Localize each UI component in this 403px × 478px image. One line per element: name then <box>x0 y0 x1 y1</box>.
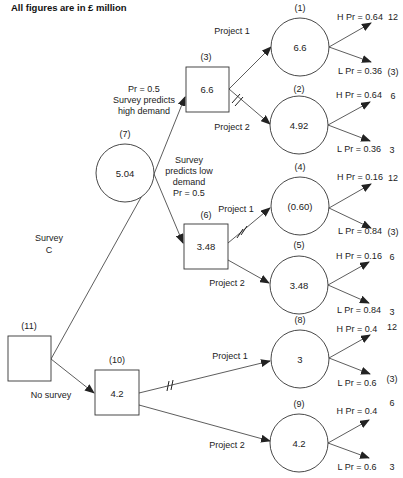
label-3-project2: Project 2 <box>214 122 250 132</box>
decision-node-6: (6) 3.48 <box>184 210 228 269</box>
edge-10-project2 <box>139 405 270 441</box>
svg-text:(3): (3) <box>388 67 399 77</box>
label-10-project1: Project 1 <box>212 351 248 361</box>
edge-no-survey <box>51 359 94 393</box>
svg-text:(3): (3) <box>201 52 212 62</box>
title: All figures are in £ million <box>11 2 127 13</box>
svg-text:12: 12 <box>388 173 398 183</box>
svg-text:Survey: Survey <box>35 233 64 243</box>
svg-text:demand: demand <box>173 177 206 187</box>
outcomes-node-8: H Pr = 0.4 12 L Pr = 0.6 (3) <box>337 322 398 388</box>
edge-10-project1 <box>139 361 270 393</box>
svg-text:3.48: 3.48 <box>197 241 216 252</box>
svg-text:L Pr = 0.36: L Pr = 0.36 <box>338 66 382 76</box>
svg-text:(7): (7) <box>120 129 131 139</box>
svg-text:L Pr = 0.6: L Pr = 0.6 <box>338 462 377 472</box>
svg-text:(3): (3) <box>387 374 398 384</box>
label-survey: Survey C <box>35 233 64 255</box>
outcomes-node-5: H Pr = 0.16 6 L Pr = 0.84 3 <box>336 251 394 317</box>
svg-text:H Pr = 0.64: H Pr = 0.64 <box>337 12 383 22</box>
label-low-demand: Survey predicts low demand Pr = 0.5 <box>165 155 213 198</box>
svg-text:(2): (2) <box>294 84 305 94</box>
svg-text:6.6: 6.6 <box>200 84 213 95</box>
label-10-project2: Project 2 <box>209 440 245 450</box>
svg-text:(8): (8) <box>295 315 306 325</box>
svg-text:C: C <box>46 245 53 255</box>
svg-text:5.04: 5.04 <box>116 168 135 179</box>
svg-text:H Pr = 0.4: H Pr = 0.4 <box>337 406 378 416</box>
svg-text:(6): (6) <box>201 210 212 220</box>
svg-text:6: 6 <box>389 398 394 408</box>
chance-node-9: (9) 4.2 <box>270 399 328 472</box>
svg-text:12: 12 <box>387 322 397 332</box>
edge-3-project2 <box>229 89 270 124</box>
svg-text:H Pr = 0.4: H Pr = 0.4 <box>337 324 378 334</box>
outcomes-node-4: H Pr = 0.16 12 L Pr = 0.84 (3) <box>337 172 398 237</box>
svg-text:3: 3 <box>297 354 302 365</box>
svg-text:Pr = 0.5: Pr = 0.5 <box>173 188 205 198</box>
svg-text:3.48: 3.48 <box>290 280 309 291</box>
decision-node-10: (10) 4.2 <box>95 355 139 415</box>
svg-text:L Pr = 0.36: L Pr = 0.36 <box>337 144 381 154</box>
decision-node-11: (11) <box>8 321 51 381</box>
svg-text:(1): (1) <box>295 3 306 13</box>
svg-text:L Pr = 0.6: L Pr = 0.6 <box>338 378 377 388</box>
label-high-demand: Pr = 0.5 Survey predicts high demand <box>113 84 176 116</box>
svg-text:(11): (11) <box>21 321 36 331</box>
svg-text:Survey predicts: Survey predicts <box>113 95 176 105</box>
svg-text:(4): (4) <box>295 162 306 172</box>
svg-text:4.92: 4.92 <box>290 120 309 131</box>
svg-text:4.2: 4.2 <box>292 438 305 449</box>
label-6-project2: Project 2 <box>209 278 245 288</box>
label-3-project1: Project 1 <box>214 26 250 36</box>
decision-node-3: (3) 6.6 <box>186 52 229 112</box>
svg-text:(3): (3) <box>388 227 399 237</box>
svg-text:3: 3 <box>389 462 394 472</box>
svg-text:3: 3 <box>389 307 394 317</box>
svg-text:(10): (10) <box>109 355 125 365</box>
svg-text:(0.60): (0.60) <box>288 201 313 212</box>
chance-node-7: (7) 5.04 <box>96 129 154 202</box>
svg-text:6: 6 <box>390 91 395 101</box>
svg-text:L Pr = 0.84: L Pr = 0.84 <box>338 226 382 236</box>
decision-tree: All figures are in £ million (11) (10) 4… <box>0 0 403 478</box>
chance-node-4: (4) (0.60) <box>271 162 329 235</box>
label-6-project1: Project 1 <box>218 204 254 214</box>
svg-text:H Pr = 0.64: H Pr = 0.64 <box>336 90 382 100</box>
svg-text:H Pr = 0.16: H Pr = 0.16 <box>336 251 382 261</box>
svg-text:H Pr = 0.16: H Pr = 0.16 <box>337 172 383 182</box>
svg-text:12: 12 <box>388 12 398 22</box>
chance-node-8: (8) 3 <box>271 315 329 388</box>
svg-text:4.2: 4.2 <box>110 388 123 399</box>
svg-text:Survey: Survey <box>175 155 204 165</box>
label-no-survey: No survey <box>31 390 72 400</box>
chance-node-5: (5) 3.48 <box>270 240 328 314</box>
svg-text:6.6: 6.6 <box>293 42 306 53</box>
svg-text:high demand: high demand <box>118 106 170 116</box>
svg-text:(5): (5) <box>294 240 305 250</box>
svg-text:6: 6 <box>389 252 394 262</box>
outcomes-node-1: H Pr = 0.64 12 L Pr = 0.36 (3) <box>337 12 398 77</box>
outcomes-node-2: H Pr = 0.64 6 L Pr = 0.36 3 <box>336 90 395 155</box>
svg-text:3: 3 <box>389 145 394 155</box>
svg-text:(9): (9) <box>294 399 305 409</box>
chance-node-2: (2) 4.92 <box>270 84 328 154</box>
svg-text:Pr = 0.5: Pr = 0.5 <box>128 84 160 94</box>
chance-node-1: (1) 6.6 <box>271 3 329 76</box>
edge-3-project1 <box>229 47 271 89</box>
svg-text:L Pr = 0.84: L Pr = 0.84 <box>337 305 381 315</box>
svg-text:predicts low: predicts low <box>165 166 213 176</box>
edge-survey <box>51 174 154 359</box>
outcomes-node-9: H Pr = 0.4 6 L Pr = 0.6 3 <box>337 398 395 472</box>
